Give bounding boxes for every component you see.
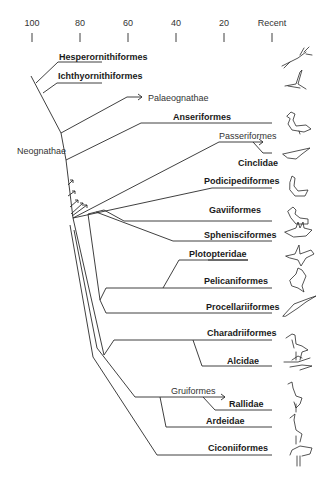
pelican-icon — [290, 268, 306, 292]
ichthyornis-bird-icon — [285, 70, 306, 89]
dipper-icon — [283, 148, 310, 159]
albatross-icon — [283, 296, 316, 316]
plotopterid-icon — [286, 245, 314, 266]
auk-icon — [284, 356, 312, 370]
loon-icon — [288, 207, 308, 224]
hesperornis-bird-icon — [282, 47, 312, 68]
ibis-icon — [290, 446, 312, 466]
bird-icons — [0, 0, 332, 479]
grebe-icon — [290, 176, 308, 196]
duck-icon — [287, 112, 311, 134]
phylogeny-diagram: 100 80 60 40 20 Recent — [0, 0, 332, 479]
rail-icon — [288, 382, 302, 412]
shorebird-icon — [286, 334, 308, 360]
heron-icon — [290, 414, 302, 444]
